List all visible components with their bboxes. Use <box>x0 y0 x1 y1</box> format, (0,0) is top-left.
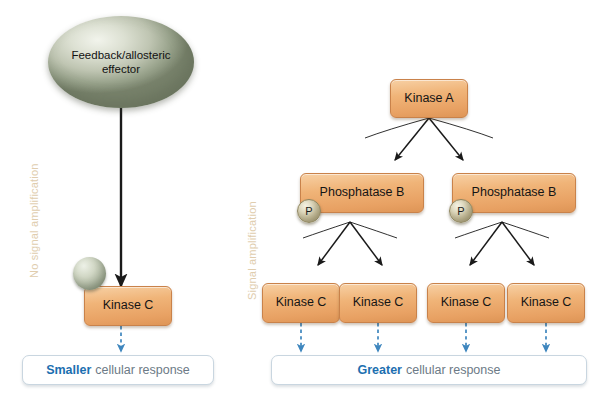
response-emphasis-smaller: Smaller <box>46 363 91 377</box>
response-box-greater: Greatercellular response <box>271 355 587 385</box>
kinase-c-box-4[interactable]: Kinase C <box>507 283 585 323</box>
effector-label-line1: Feedback/allosteric <box>71 48 170 62</box>
kinase-c-box-3[interactable]: Kinase C <box>427 283 505 323</box>
phosphate-group-left: P <box>297 199 321 223</box>
arrow-kinasea-to-phosphatases <box>365 118 493 160</box>
response-text-greater: cellular response <box>406 363 501 377</box>
arrow-phosphatase-right-to-kinases <box>455 222 549 265</box>
kinase-a-box[interactable]: Kinase A <box>390 79 468 118</box>
response-box-smaller: Smallercellular response <box>22 355 214 385</box>
kinase-c-box-2[interactable]: Kinase C <box>339 283 417 323</box>
panel-caption-left: No signal amplification <box>28 163 40 278</box>
response-emphasis-greater: Greater <box>358 363 402 377</box>
phosphate-group-right: P <box>449 199 473 223</box>
kinase-c-box-1[interactable]: Kinase C <box>262 283 340 323</box>
arrow-kinases-to-response-right <box>301 323 546 349</box>
response-text-smaller: cellular response <box>95 363 190 377</box>
feedback-allosteric-effector: Feedback/allosteric effector <box>48 16 194 108</box>
diagram-canvas: No signal amplification Feedback/alloste… <box>0 0 610 403</box>
effector-label-line2: effector <box>71 62 170 76</box>
arrow-phosphatase-left-to-kinases <box>303 222 397 265</box>
kinase-c-box-left[interactable]: Kinase C <box>84 286 172 326</box>
panel-caption-right: Signal amplification <box>246 201 258 300</box>
substrate-sphere <box>73 257 106 290</box>
